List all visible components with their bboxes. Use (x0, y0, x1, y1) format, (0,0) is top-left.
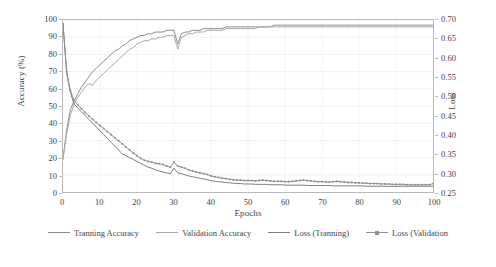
y-axis-right-tick-label: 0.35 (441, 149, 467, 159)
series-marker-3 (417, 184, 419, 186)
plot-area (62, 19, 434, 193)
series-marker-3 (118, 140, 120, 142)
y-axis-left-tick-label: 40 (35, 118, 57, 128)
y-axis-right-tick-label: 0.30 (441, 169, 467, 179)
legend-swatch-icon (268, 229, 290, 237)
series-marker-3 (173, 161, 175, 163)
series-marker-3 (303, 179, 305, 181)
x-axis-tick-label: 70 (310, 197, 334, 207)
series-marker-3 (144, 159, 146, 161)
y-axis-right-tick-label: 0.60 (441, 53, 467, 63)
series-marker-3 (343, 181, 345, 183)
series-marker-3 (266, 180, 268, 182)
y-axis-right-tick-mark (435, 174, 438, 175)
y-axis-right-tick-mark (435, 154, 438, 155)
series-marker-3 (107, 131, 109, 133)
legend-item-label: Loss (Tranning) (294, 228, 349, 238)
series-marker-3 (414, 184, 416, 186)
legend-item-3[interactable]: Loss (Validation (366, 228, 448, 238)
series-marker-3 (73, 99, 75, 101)
x-axis-tick-label: 50 (236, 197, 260, 207)
y-axis-left-tick-label: 100 (35, 14, 57, 24)
x-axis-tick-label: 60 (273, 197, 297, 207)
legend-item-0[interactable]: Tranning Accuracy (48, 228, 139, 238)
series-marker-3 (95, 122, 97, 124)
series-marker-3 (203, 173, 205, 175)
x-axis-tick-label: 30 (162, 197, 186, 207)
series-marker-3 (358, 182, 360, 184)
legend-item-1[interactable]: Validation Accuracy (156, 228, 251, 238)
y-axis-left-tick-label: 90 (35, 31, 57, 41)
x-axis-tick-label: 20 (124, 197, 148, 207)
series-marker-3 (421, 184, 423, 186)
legend-item-label: Loss (Validation (392, 228, 448, 238)
series-marker-3 (181, 166, 183, 168)
series-marker-3 (240, 179, 242, 181)
series-marker-3 (329, 181, 331, 183)
series-marker-3 (129, 149, 131, 151)
x-axis-tick-label: 0 (50, 197, 74, 207)
series-marker-3 (132, 152, 134, 154)
series-marker-3 (325, 181, 327, 183)
series-marker-3 (251, 180, 253, 182)
legend-swatch-icon (366, 229, 388, 237)
series-marker-3 (92, 118, 94, 120)
x-axis-title: Epochs (0, 208, 496, 218)
series-marker-3 (121, 143, 123, 145)
series-marker-3 (88, 115, 90, 117)
series-marker-3 (188, 169, 190, 171)
x-axis-tick-label: 10 (87, 197, 111, 207)
y-axis-left-tick-label: 70 (35, 66, 57, 76)
series-marker-3 (406, 184, 408, 186)
legend-item-2[interactable]: Loss (Tranning) (268, 228, 349, 238)
series-marker-3 (273, 180, 275, 182)
series-marker-3 (255, 180, 257, 182)
series-marker-3 (195, 171, 197, 173)
legend-item-label: Tranning Accuracy (74, 228, 139, 238)
y-axis-right-tick-mark (435, 193, 438, 194)
series-marker-3 (373, 183, 375, 185)
legend-item-label: Validation Accuracy (182, 228, 251, 238)
series-marker-3 (292, 180, 294, 182)
y-axis-right-tick-label: 0.40 (441, 130, 467, 140)
y-axis-left-tick-label: 80 (35, 49, 57, 59)
series-marker-3 (425, 184, 427, 186)
series-marker-3 (103, 128, 105, 130)
series-marker-3 (125, 146, 127, 148)
x-axis-tick-label: 80 (348, 197, 372, 207)
y-axis-right-tick-label: 0.50 (441, 91, 467, 101)
series-marker-3 (310, 180, 312, 182)
series-marker-3 (243, 180, 245, 182)
series-marker-3 (399, 183, 401, 185)
series-marker-3 (258, 180, 260, 182)
series-marker-3 (210, 175, 212, 177)
series-marker-3 (218, 177, 220, 179)
series-marker-3 (366, 182, 368, 184)
plot-svg (63, 20, 433, 192)
series-marker-3 (269, 180, 271, 182)
series-marker-3 (77, 104, 79, 106)
series-marker-3 (403, 183, 405, 185)
series-marker-3 (225, 178, 227, 180)
y-axis-left-tick-mark (59, 193, 62, 194)
series-marker-3 (206, 174, 208, 176)
series-marker-3 (377, 183, 379, 185)
series-marker-3 (317, 181, 319, 183)
series-marker-3 (236, 179, 238, 181)
y-axis-right-tick-mark (435, 19, 438, 20)
x-axis-tick-label: 100 (422, 197, 446, 207)
series-marker-3 (169, 166, 171, 168)
series-marker-3 (332, 181, 334, 183)
series-marker-3 (177, 165, 179, 167)
y-axis-left-tick-label: 10 (35, 171, 57, 181)
y-axis-left-tick-label: 60 (35, 84, 57, 94)
y-axis-right-tick-label: 0.65 (441, 33, 467, 43)
series-marker-3 (232, 179, 234, 181)
series-marker-3 (369, 183, 371, 185)
y-axis-left-tick-label: 50 (35, 101, 57, 111)
series-marker-3 (199, 172, 201, 174)
series-marker-3 (306, 180, 308, 182)
series-marker-3 (340, 181, 342, 183)
x-axis-tick-label: 40 (199, 197, 223, 207)
series-marker-3 (351, 182, 353, 184)
